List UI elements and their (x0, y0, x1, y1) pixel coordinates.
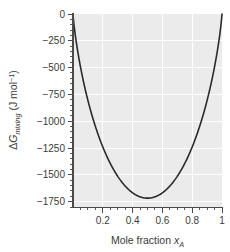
x-tick-label: 0.8 (185, 215, 199, 226)
x-axis-title: Mole fraction xA (111, 234, 184, 249)
y-tick-label: −500 (42, 62, 65, 73)
y-axis-tick-labels: 0−250−500−750−1000−1250−1500−1750 (37, 9, 66, 208)
x-tick-label: 0.2 (96, 215, 110, 226)
gibbs-mixing-chart: 0−250−500−750−1000−1250−1500−1750 0.20.4… (0, 0, 230, 252)
y-axis-major-ticks (68, 14, 74, 202)
y-tick-label: −250 (42, 35, 65, 46)
y-tick-label: −1500 (37, 169, 66, 180)
svg-text:ΔGmixing (J mol−1): ΔGmixing (J mol−1) (7, 70, 22, 150)
plot-panel-background (73, 14, 222, 207)
chart-canvas: 0−250−500−750−1000−1250−1500−1750 0.20.4… (0, 0, 230, 252)
y-tick-label: −1000 (37, 116, 66, 127)
x-tick-label: 0.6 (155, 215, 169, 226)
x-tick-label: 0.4 (126, 215, 140, 226)
y-axis-title: ΔGmixing (J mol−1) (7, 70, 22, 150)
y-tick-label: −1250 (37, 143, 66, 154)
x-tick-label: 1 (219, 215, 225, 226)
svg-text:Mole fraction xA: Mole fraction xA (111, 234, 184, 249)
y-tick-label: 0 (59, 9, 65, 20)
x-axis-tick-labels: 0.20.40.60.81 (96, 215, 225, 226)
y-tick-label: −1750 (37, 196, 66, 207)
y-tick-label: −750 (42, 89, 65, 100)
